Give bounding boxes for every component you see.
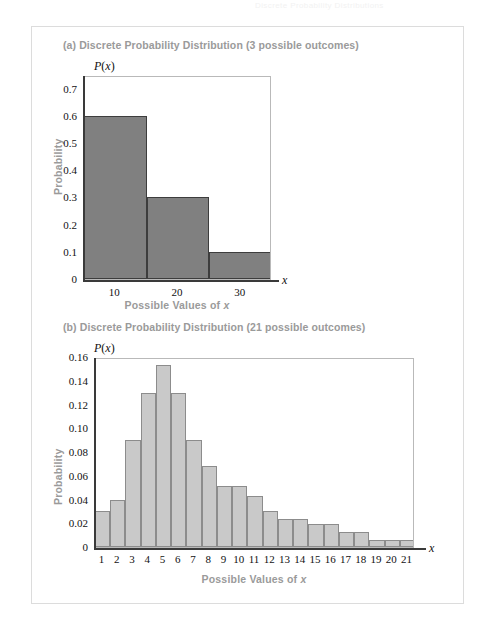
chart-b-bar: [354, 532, 369, 547]
chart-b-x-axis: [94, 548, 426, 550]
chart-a-plot-area: [83, 76, 271, 280]
chart-b-bar: [217, 486, 232, 547]
chart-a-y-tick: 0.2: [41, 219, 77, 231]
chart-b-y-tick: 0.12: [50, 399, 88, 411]
chart-a-y-tick: 0.7: [41, 83, 77, 95]
chart-a-title: (a) Discrete Probability Distribution (3…: [63, 39, 359, 51]
chart-b-bar: [400, 540, 414, 547]
chart-b-x-tick: 21: [391, 553, 421, 565]
chart-b-bar: [385, 540, 400, 547]
chart-b-y-tick: 0.10: [50, 422, 88, 434]
chart-b-y-tick: 0.14: [50, 375, 88, 387]
chart-b-bar: [141, 393, 156, 547]
chart-b-title: (b) Discrete Probability Distribution (2…: [63, 321, 365, 333]
chart-a-y-tick: 0: [41, 273, 77, 285]
chart-a-bar: [84, 116, 147, 279]
chart-b-y-variable-label: P(x): [94, 341, 115, 356]
chart-b-plot-area: [94, 358, 414, 548]
chart-a-x-tick: 30: [220, 286, 260, 298]
chart-b-bars: [95, 359, 413, 547]
chart-b-bar: [125, 440, 140, 547]
chart-a-bars: [84, 77, 270, 279]
chart-a-y-tick: 0.3: [41, 191, 77, 203]
chart-b-bar: [339, 532, 354, 547]
chart-a-y-tick: 0.6: [41, 110, 77, 122]
chart-a-x-tick: 20: [157, 286, 197, 298]
chart-b-bar: [324, 524, 339, 547]
chart-b-bar: [110, 500, 125, 548]
chart-b-bar: [95, 511, 110, 547]
chart-b-y-tick: 0.16: [50, 351, 88, 363]
chart-b-bar: [369, 540, 384, 547]
chart-b-y-tick: 0.08: [50, 446, 88, 458]
chart-b-y-tick: 0.04: [50, 494, 88, 506]
ghost-header-text: Discrete Probability Distributions: [255, 1, 485, 10]
chart-a-bar: [147, 197, 210, 279]
chart-a-x-axis-title: Possible Values of x: [107, 299, 247, 311]
chart-b-bar: [293, 519, 308, 548]
chart-b-bar: [247, 496, 262, 547]
chart-b-x-axis-title: Possible Values of x: [184, 573, 324, 585]
chart-b-bar: [171, 393, 186, 547]
chart-b-x-variable-label: x: [429, 541, 434, 556]
chart-b-y-tick: 0.06: [50, 470, 88, 482]
chart-b-bar: [308, 524, 323, 547]
chart-b-bar: [263, 511, 278, 547]
chart-b-y-tick: 0: [50, 541, 88, 553]
chart-b-y-axis: [94, 358, 96, 549]
chart-a-y-tick: 0.5: [41, 137, 77, 149]
chart-b-bar: [186, 440, 201, 547]
chart-b-bar: [202, 466, 217, 547]
chart-a-y-variable-label: P(x): [94, 59, 115, 74]
probability-distributions-figure: (a) Discrete Probability Distribution (3…: [31, 26, 464, 604]
chart-a-y-tick: 0.4: [41, 164, 77, 176]
chart-a-y-axis: [83, 76, 85, 281]
chart-a-x-tick: 10: [94, 286, 134, 298]
chart-b-y-tick: 0.02: [50, 517, 88, 529]
chart-a-x-axis: [83, 280, 279, 282]
chart-b-bar: [156, 365, 171, 547]
chart-b-bar: [278, 519, 293, 548]
chart-b-bar: [232, 486, 247, 547]
chart-a-x-variable-label: x: [282, 273, 287, 288]
chart-a-bar: [209, 252, 271, 279]
chart-a-y-tick: 0.1: [41, 246, 77, 258]
